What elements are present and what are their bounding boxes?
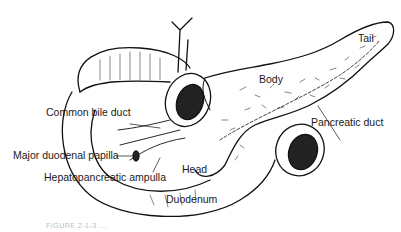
label-pancreatic-duct: Pancreatic duct: [311, 117, 383, 128]
label-common-bile-duct: Common bile duct: [46, 107, 131, 118]
label-hepatopancreatic-ampulla: Hepatopancreatic ampulla: [44, 172, 166, 183]
figure-caption: FIGURE 2-1-3 ...: [46, 222, 107, 229]
label-body: Body: [259, 74, 283, 85]
label-head: Head: [182, 164, 207, 175]
label-major-duodenal-papilla: Major duodenal papilla: [13, 150, 119, 161]
label-duodenum: Duodenum: [166, 194, 217, 205]
label-tail: Tail: [358, 33, 374, 44]
